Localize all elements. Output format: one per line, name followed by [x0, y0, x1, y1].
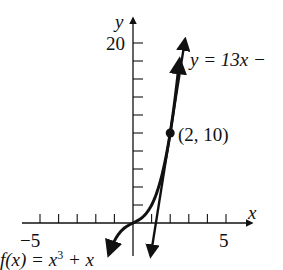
cubic-curve — [109, 60, 180, 255]
tangent-point — [166, 129, 175, 138]
tangent-line-label: y = 13x − — [190, 50, 266, 69]
x-axis-label: x — [248, 203, 256, 222]
curve-label: f(x) = x3 + x — [0, 249, 94, 269]
y-axis-ticks — [133, 43, 143, 205]
x-tick-label-5: 5 — [219, 231, 229, 250]
point-label: (2, 10) — [178, 125, 229, 144]
y-tick-label-20: 20 — [106, 34, 125, 53]
curve-label-prefix: f(x) = x — [0, 249, 57, 270]
curve-label-suffix: + x — [63, 249, 94, 270]
y-axis-label: y — [115, 12, 123, 31]
x-tick-label-neg5: −5 — [20, 231, 40, 250]
